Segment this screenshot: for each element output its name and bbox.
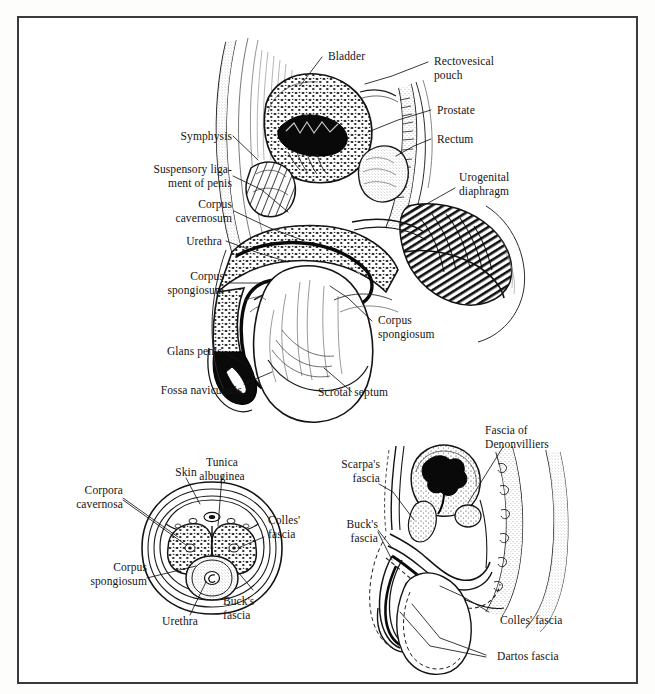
label-bladder: Bladder	[328, 50, 365, 64]
label-bucks-fascia-fascial: Buck's fascia	[318, 518, 378, 545]
label-tunica-albuginea: Tunica albuginea	[186, 456, 258, 483]
label-urethra-cross: Urethra	[152, 615, 208, 629]
anatomy-plate: Bladder Rectovesical pouch Prostate Rect…	[0, 0, 655, 694]
label-prostate: Prostate	[437, 104, 475, 118]
label-colles-fascia-cross: Colles' fascia	[268, 514, 300, 541]
label-rectum: Rectum	[437, 133, 473, 147]
label-corpora-cavernosa: Corpora cavernosa	[60, 484, 123, 511]
label-dartos-fascia: Dartos fascia	[497, 650, 559, 664]
label-corpus-spongiosum-cross: Corpus spongiosum	[58, 561, 147, 588]
label-corpus-spongiosum-left: Corpus spongiosum	[126, 270, 224, 297]
label-scrotal-septum: Scrotal septum	[318, 386, 388, 400]
label-corpus-spongiosum-right: Corpus spongiosum	[378, 314, 435, 341]
label-suspensory-ligament-of-penis: Suspensory liga- ment of penis	[106, 163, 232, 190]
label-symphysis: Symphysis	[126, 130, 232, 144]
label-corpus-cavernosum: Corpus cavernosum	[126, 198, 232, 225]
label-bucks-fascia-cross: Buck's fascia	[223, 595, 254, 622]
label-urethra: Urethra	[126, 235, 222, 249]
label-glans-penis: Glans penis	[118, 345, 222, 359]
label-colles-fascia-fascial: Colles' fascia	[500, 614, 563, 628]
label-fossa-navicularis: Fossa navicularis	[110, 384, 242, 398]
label-rectovesical-pouch: Rectovesical pouch	[434, 55, 494, 82]
label-fascia-of-denonvilliers: Fascia of Denonvilliers	[485, 424, 549, 451]
label-urogenital-diaphragm: Urogenital diaphragm	[459, 171, 509, 198]
label-scarpas-fascia: Scarpa's fascia	[318, 458, 380, 485]
